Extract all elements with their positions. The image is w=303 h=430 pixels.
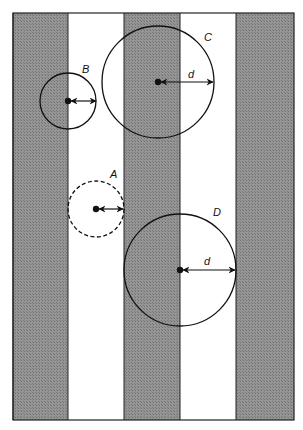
center-dot-icon <box>155 79 161 85</box>
stripe-dark <box>124 13 180 420</box>
distance-label: d <box>204 255 211 267</box>
circle-label: C <box>204 31 212 43</box>
center-dot-icon <box>93 206 99 212</box>
circle-label: D <box>213 206 221 218</box>
circle-label: A <box>109 168 117 180</box>
center-dot-icon <box>177 267 183 273</box>
center-dot-icon <box>65 98 71 104</box>
distance-label: d <box>188 68 195 80</box>
circle-label: B <box>82 63 89 75</box>
stripes <box>13 13 294 420</box>
striped-field-diagram: ABCdDd <box>0 0 303 430</box>
stripe-dark <box>236 13 294 420</box>
